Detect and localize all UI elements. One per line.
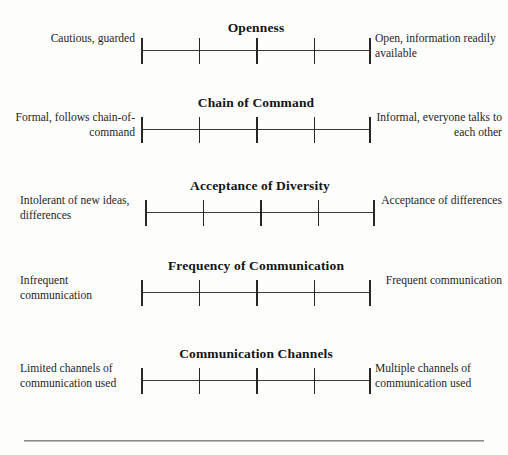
footer-divider — [24, 440, 484, 442]
scale-right-anchor-chain-of-command: Informal, everyone talks to each other — [375, 111, 502, 140]
scale-tick-openness-3[interactable] — [256, 38, 258, 64]
scale-left-anchor-communication-channels: Limited channels of communication used — [20, 362, 139, 391]
scale-tick-acceptance-of-diversity-3[interactable] — [260, 200, 262, 226]
scale-tick-communication-channels-1[interactable] — [141, 368, 143, 394]
scale-tick-frequency-of-communication-1[interactable] — [141, 280, 143, 306]
scale-tick-frequency-of-communication-3[interactable] — [256, 280, 258, 306]
scale-tick-frequency-of-communication-5[interactable] — [369, 280, 371, 306]
scale-tick-frequency-of-communication-4[interactable] — [314, 280, 316, 306]
scale-tick-openness-4[interactable] — [314, 38, 316, 64]
scale-title-acceptance-of-diversity: Acceptance of Diversity — [120, 178, 400, 194]
scale-right-anchor-frequency-of-communication: Frequent communication — [375, 274, 502, 289]
scale-tick-chain-of-command-5[interactable] — [369, 117, 371, 143]
scale-tick-chain-of-command-2[interactable] — [199, 117, 201, 143]
scale-tick-frequency-of-communication-2[interactable] — [199, 280, 201, 306]
scale-title-frequency-of-communication: Frequency of Communication — [116, 258, 396, 274]
scale-tick-communication-channels-5[interactable] — [369, 368, 371, 394]
scale-tick-communication-channels-4[interactable] — [314, 368, 316, 394]
scale-tick-acceptance-of-diversity-5[interactable] — [373, 200, 375, 226]
scale-right-anchor-communication-channels: Multiple channels of communication used — [375, 362, 502, 391]
scale-ruler-communication-channels[interactable] — [141, 368, 371, 394]
scale-tick-chain-of-command-1[interactable] — [141, 117, 143, 143]
scale-ruler-chain-of-command[interactable] — [141, 117, 371, 143]
scale-title-communication-channels: Communication Channels — [116, 346, 396, 362]
scale-left-anchor-acceptance-of-diversity: Intolerant of new ideas, differences — [20, 194, 143, 223]
scale-tick-acceptance-of-diversity-4[interactable] — [318, 200, 320, 226]
scale-tick-openness-1[interactable] — [141, 38, 143, 64]
scale-tick-communication-channels-3[interactable] — [256, 368, 258, 394]
scale-tick-acceptance-of-diversity-2[interactable] — [203, 200, 205, 226]
document-page: OpennessCautious, guardedOpen, informati… — [0, 0, 508, 455]
scale-tick-chain-of-command-3[interactable] — [256, 117, 258, 143]
scale-ruler-openness[interactable] — [141, 38, 371, 64]
scale-title-openness: Openness — [116, 20, 396, 36]
scale-left-anchor-openness: Cautious, guarded — [8, 32, 135, 47]
scale-right-anchor-openness: Open, information readily available — [375, 32, 502, 61]
scale-tick-openness-2[interactable] — [199, 38, 201, 64]
scale-tick-communication-channels-2[interactable] — [199, 368, 201, 394]
scale-tick-acceptance-of-diversity-1[interactable] — [145, 200, 147, 226]
scale-tick-chain-of-command-4[interactable] — [314, 117, 316, 143]
scale-left-anchor-frequency-of-communication: Infrequent communication — [20, 274, 139, 303]
scale-tick-openness-5[interactable] — [369, 38, 371, 64]
scale-title-chain-of-command: Chain of Command — [116, 95, 396, 111]
scale-ruler-acceptance-of-diversity[interactable] — [145, 200, 375, 226]
scale-right-anchor-acceptance-of-diversity: Acceptance of differences — [379, 194, 502, 209]
scale-left-anchor-chain-of-command: Formal, follows chain-of-command — [8, 111, 135, 140]
scale-ruler-frequency-of-communication[interactable] — [141, 280, 371, 306]
